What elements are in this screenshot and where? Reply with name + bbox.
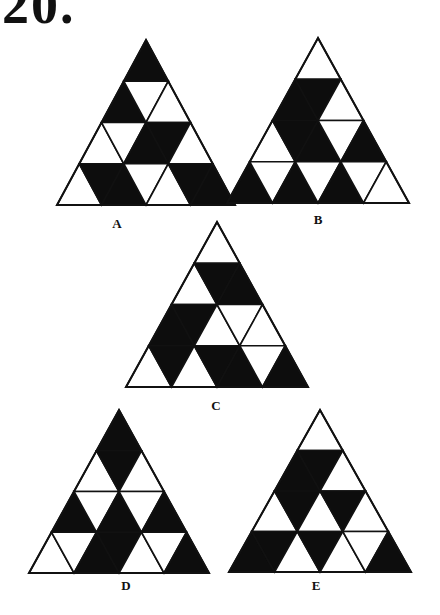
triangle-figures xyxy=(0,0,440,615)
figure-e[interactable] xyxy=(229,410,411,572)
figure-a[interactable] xyxy=(57,40,235,205)
option-label-d: D xyxy=(121,578,130,594)
triangle-cell-empty xyxy=(297,410,343,451)
option-label-b: B xyxy=(314,212,323,228)
triangle-cell-empty xyxy=(295,38,341,79)
option-label-c: C xyxy=(211,398,220,414)
figure-c[interactable] xyxy=(126,222,308,387)
option-label-e: E xyxy=(312,578,321,594)
triangle-cell-shaded xyxy=(124,40,169,81)
figure-d[interactable] xyxy=(29,410,209,573)
figure-b[interactable] xyxy=(227,38,409,203)
triangle-cell-empty xyxy=(194,222,240,263)
triangle-cell-shaded xyxy=(97,410,142,451)
option-label-a: A xyxy=(112,216,121,232)
